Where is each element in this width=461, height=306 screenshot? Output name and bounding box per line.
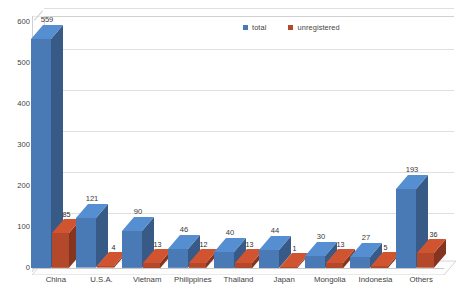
bar-unregistered-others[interactable] [417, 239, 446, 268]
value-label-total-7: 27 [346, 233, 386, 242]
value-label-unregistered-1: 4 [94, 243, 134, 252]
legend-label-total: total [252, 23, 266, 32]
legend-entry-total[interactable]: total [243, 23, 266, 32]
value-label-total-3: 46 [164, 225, 204, 234]
y-axis-tick-label: 500 [4, 58, 30, 67]
bar-chart: 0100200300400500600 total unregistered 5… [0, 0, 461, 306]
legend-label-unregistered: unregistered [297, 23, 339, 32]
y-axis-tick-label: 200 [4, 181, 30, 190]
value-label-unregistered-2: 13 [138, 240, 178, 249]
value-label-unregistered-8: 36 [414, 230, 454, 239]
y-axis-tick-label: 300 [4, 140, 30, 149]
gridline [44, 131, 454, 132]
y-axis-tick-label: 400 [4, 99, 30, 108]
x-axis-line [32, 268, 444, 269]
legend-entry-unregistered[interactable]: unregistered [288, 23, 339, 32]
chart-legend: total unregistered [243, 23, 340, 32]
value-label-unregistered-3: 12 [184, 240, 224, 249]
value-label-total-2: 90 [118, 207, 158, 216]
value-label-unregistered-4: 13 [230, 240, 270, 249]
x-axis-label-others: Others [381, 275, 461, 284]
bar-unregistered-others-shape [417, 239, 446, 268]
value-label-total-0: 559 [27, 15, 67, 24]
y-axis-tick-label: 100 [4, 222, 30, 231]
value-label-total-8: 193 [392, 165, 432, 174]
value-label-total-1: 121 [72, 194, 112, 203]
gridline [44, 8, 454, 9]
legend-swatch-unregistered-icon [288, 25, 293, 30]
value-label-total-5: 44 [255, 226, 295, 235]
gridline [44, 49, 454, 50]
y-axis-tick-label: 0 [4, 263, 30, 272]
value-label-unregistered-0: 85 [47, 210, 87, 219]
value-label-total-4: 40 [210, 228, 250, 237]
value-label-unregistered-7: 5 [366, 243, 406, 252]
legend-swatch-total-icon [243, 25, 248, 30]
gridline [44, 90, 454, 91]
value-label-unregistered-5: 1 [275, 244, 315, 253]
